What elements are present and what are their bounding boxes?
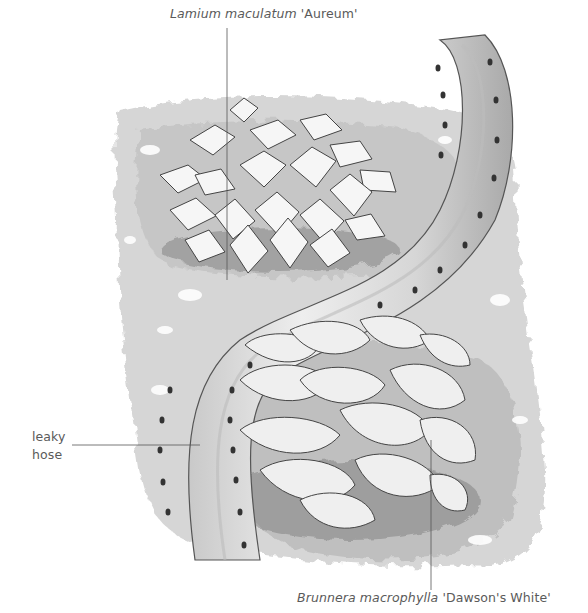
label-brunnera-cultivar: 'Dawson's White' (438, 590, 550, 605)
label-lamium-cultivar: 'Aureum' (297, 6, 358, 21)
illustration (0, 0, 588, 613)
label-brunnera: Brunnera macrophylla 'Dawson's White' (297, 590, 551, 605)
label-hose-line1: leaky (32, 428, 66, 446)
label-lamium-species: Lamium maculatum (170, 6, 297, 21)
label-brunnera-species: Brunnera macrophylla (297, 590, 438, 605)
label-lamium: Lamium maculatum 'Aureum' (170, 6, 358, 21)
label-leaky-hose: leaky hose (32, 428, 66, 464)
label-hose-line2: hose (32, 446, 66, 464)
